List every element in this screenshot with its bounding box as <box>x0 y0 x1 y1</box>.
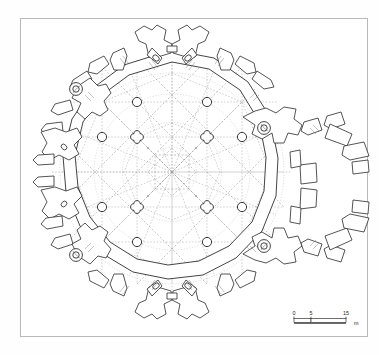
scale-tick-15: 15 <box>343 310 349 316</box>
figure-page: .wall { fill:#ffffff; stroke:#222222; st… <box>0 0 379 355</box>
circular-pier <box>132 97 141 106</box>
floor-plan-drawing: .wall { fill:#ffffff; stroke:#222222; st… <box>0 0 379 355</box>
spiral-stair-turret <box>70 83 83 96</box>
scale-tick-0: 0 <box>293 310 296 316</box>
scale-tick-5: 5 <box>310 310 313 316</box>
spiral-stair-turret <box>70 249 83 262</box>
circular-pier <box>202 237 211 246</box>
spiral-stair-turret <box>258 240 271 253</box>
scale-bar: 0 5 15 m <box>292 308 362 330</box>
circular-pier <box>132 237 141 246</box>
circular-pier <box>97 132 106 141</box>
scale-unit-label: m <box>354 320 359 326</box>
circular-pier <box>202 97 211 106</box>
spiral-stair-turret <box>258 122 271 135</box>
circular-pier <box>97 202 106 211</box>
circular-pier <box>237 132 246 141</box>
circular-pier <box>237 202 246 211</box>
